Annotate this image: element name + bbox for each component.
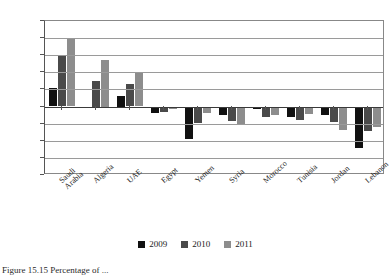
bar bbox=[339, 107, 347, 130]
gridline bbox=[45, 141, 383, 142]
plot-frame bbox=[44, 20, 384, 174]
y-axis-tick-mark bbox=[40, 54, 44, 55]
x-axis-tick-mark bbox=[129, 106, 130, 110]
bar bbox=[271, 107, 279, 116]
legend-label: 2010 bbox=[192, 240, 210, 249]
y-axis-tick-mark bbox=[40, 71, 44, 72]
figure-caption: Figure 15.15 Percentage of ... bbox=[2, 265, 389, 275]
x-axis-tick-mark bbox=[265, 106, 266, 110]
gridline bbox=[45, 89, 383, 90]
bar bbox=[203, 107, 211, 114]
legend-label: 2009 bbox=[149, 240, 167, 249]
x-axis-tick-mark bbox=[61, 106, 62, 110]
y-axis-tick-mark bbox=[40, 123, 44, 124]
chart-legend: 200920102011 bbox=[0, 240, 391, 249]
x-axis-tick-mark bbox=[95, 106, 96, 110]
x-axis-tick-mark bbox=[367, 106, 368, 110]
y-axis-tick-mark bbox=[40, 88, 44, 89]
bar bbox=[219, 107, 227, 116]
plot-area: 25.020.015.010.05.00.0-5.0-10.0-15.0-20.… bbox=[44, 20, 384, 174]
y-axis-tick-mark bbox=[40, 37, 44, 38]
y-axis-tick-mark bbox=[40, 157, 44, 158]
x-axis-tick-mark bbox=[299, 106, 300, 110]
bar bbox=[237, 107, 245, 125]
x-axis-tick-mark bbox=[163, 106, 164, 110]
legend-item: 2010 bbox=[181, 240, 210, 249]
bar bbox=[287, 107, 295, 117]
y-axis-tick-mark bbox=[40, 140, 44, 141]
x-axis-tick-mark bbox=[333, 106, 334, 110]
gridline bbox=[45, 55, 383, 56]
legend-swatch bbox=[138, 241, 145, 248]
gridline bbox=[45, 72, 383, 73]
legend-swatch bbox=[224, 241, 231, 248]
bar bbox=[58, 55, 66, 106]
bar bbox=[364, 107, 372, 131]
gridline bbox=[45, 38, 383, 39]
y-axis-tick-mark bbox=[40, 106, 44, 107]
x-axis-tick-mark bbox=[231, 106, 232, 110]
bar bbox=[101, 60, 109, 106]
legend-swatch bbox=[181, 241, 188, 248]
gridline bbox=[45, 124, 383, 125]
bar bbox=[126, 84, 134, 106]
bar bbox=[321, 107, 329, 116]
legend-label: 2011 bbox=[235, 240, 253, 249]
bar bbox=[49, 88, 57, 107]
legend-item: 2009 bbox=[138, 240, 167, 249]
y-axis-tick-mark bbox=[40, 174, 44, 175]
x-axis-tick-mark bbox=[197, 106, 198, 110]
bar bbox=[117, 96, 125, 106]
y-axis-tick-mark bbox=[40, 20, 44, 21]
gridline bbox=[45, 158, 383, 159]
legend-item: 2011 bbox=[224, 240, 253, 249]
bar bbox=[305, 107, 313, 115]
bar bbox=[92, 81, 100, 107]
bar-series-layer bbox=[45, 21, 383, 173]
